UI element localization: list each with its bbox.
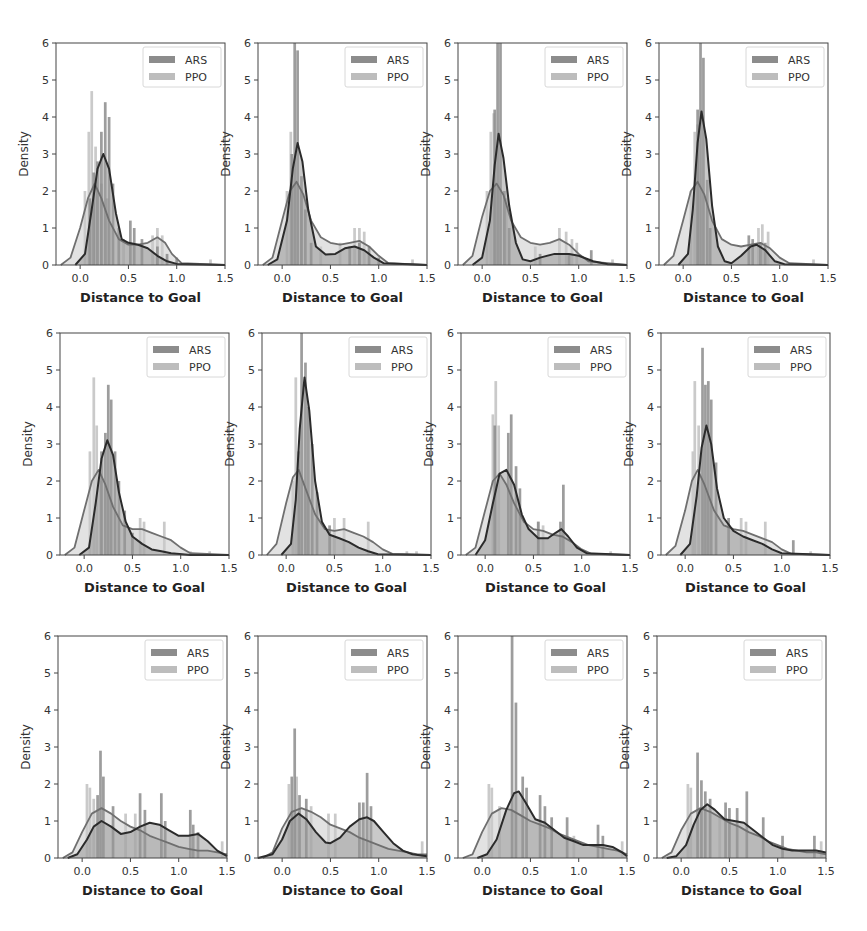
ppo-legend-label: PPO [590,361,612,374]
y-tick-label: 1 [44,815,51,828]
x-axis-label: Distance to Goal [681,883,802,898]
x-tick-label: 0.5 [525,562,543,575]
y-tick-label: 2 [444,185,451,198]
y-tick-label: 4 [447,401,454,414]
y-tick-label: 5 [645,74,652,87]
y-tick-label: 0 [647,549,654,562]
x-tick-label: 0.0 [75,562,93,575]
ars-legend-label: ARS [387,54,409,67]
x-tick-label: 0.5 [124,562,142,575]
x-tick-label: 0.0 [277,562,295,575]
y-tick-label: 5 [46,364,53,377]
y-tick-label: 6 [46,327,53,340]
ppo-legend-swatch [750,666,776,673]
x-tick-label: 1.0 [170,865,188,878]
subplot-r1-c2: 01234560.00.51.01.5DensityDistance to Go… [208,33,437,319]
x-tick-label: 1.0 [370,272,388,285]
y-tick-label: 0 [643,852,650,865]
y-tick-label: 3 [244,741,251,754]
y-tick-label: 2 [643,778,650,791]
ars-legend-label: ARS [387,647,409,660]
y-tick-label: 4 [444,111,451,124]
x-tick-label: 0.5 [522,272,540,285]
y-axis-label: Density [618,724,632,770]
y-tick-label: 5 [647,364,654,377]
y-tick-label: 6 [44,630,51,643]
x-tick-label: 1.0 [374,562,392,575]
ppo-legend-swatch [754,363,780,370]
x-tick-label: 1.0 [370,865,388,878]
y-tick-label: 2 [248,475,255,488]
x-axis-label: Distance to Goal [282,883,403,898]
x-tick-label: 0.5 [120,272,138,285]
y-tick-label: 6 [447,327,454,340]
y-tick-label: 6 [248,327,255,340]
y-tick-label: 0 [444,259,451,272]
ppo-legend-label: PPO [391,361,413,374]
ppo-legend-label: PPO [387,664,409,677]
subplot-r2-c4: 01234560.00.51.01.5DensityDistance to Go… [611,323,840,609]
x-axis-label: Distance to Goal [80,290,201,305]
x-tick-label: 0.5 [721,865,739,878]
x-axis-label: Distance to Goal [286,580,407,595]
ars-legend-swatch [551,56,577,63]
y-tick-label: 3 [46,438,53,451]
ppo-legend-swatch [355,363,381,370]
y-tick-label: 3 [42,148,49,161]
y-tick-label: 5 [244,74,251,87]
y-tick-label: 3 [643,741,650,754]
y-tick-label: 4 [248,401,255,414]
y-tick-label: 2 [42,185,49,198]
x-tick-label: 0.0 [273,272,291,285]
y-tick-label: 2 [44,778,51,791]
x-tick-label: 1.0 [570,272,588,285]
ars-legend-label: ARS [590,344,612,357]
y-tick-label: 6 [645,37,652,50]
subplot-r3-c4: 01234560.00.51.01.5DensityDistance to Go… [607,626,836,912]
y-tick-label: 2 [447,475,454,488]
x-tick-label: 1.5 [821,562,839,575]
y-tick-label: 5 [42,74,49,87]
y-tick-label: 1 [643,815,650,828]
y-tick-label: 0 [244,852,251,865]
ppo-legend-swatch [554,363,580,370]
x-axis-label: Distance to Goal [84,580,205,595]
ppo-legend-swatch [351,73,377,80]
y-tick-label: 1 [244,815,251,828]
x-axis-label: Distance to Goal [482,290,603,305]
ars-legend-swatch [153,346,179,353]
x-tick-label: 1.0 [573,562,591,575]
ppo-histogram [65,377,229,555]
y-tick-label: 5 [447,364,454,377]
x-tick-label: 0.5 [322,865,340,878]
y-tick-label: 6 [244,37,251,50]
legend: ARSPPO [748,337,826,377]
ars-legend-label: ARS [786,647,808,660]
y-axis-label: Density [219,131,233,177]
y-tick-label: 3 [44,741,51,754]
subplot-r3-c1: 01234560.00.51.01.5DensityDistance to Go… [8,626,237,912]
y-tick-label: 4 [244,704,251,717]
subplot-r3-c3: 01234560.00.51.01.5DensityDistance to Go… [408,626,637,912]
ars-legend-swatch [752,56,778,63]
ppo-legend-swatch [551,73,577,80]
ppo-histogram [666,381,830,555]
x-tick-label: 1.0 [172,562,190,575]
legend: ARSPPO [746,47,824,87]
x-tick-label: 0.5 [326,562,344,575]
ars-legend-swatch [554,346,580,353]
x-axis-label: Distance to Goal [82,883,203,898]
x-tick-label: 0.5 [723,272,741,285]
y-tick-label: 4 [44,704,51,717]
ppo-legend-label: PPO [587,664,609,677]
x-tick-label: 0.5 [322,272,340,285]
x-tick-label: 0.0 [674,272,692,285]
ppo-histogram [61,91,225,265]
y-tick-label: 1 [244,222,251,235]
y-axis-label: Density [223,421,237,467]
y-tick-label: 6 [244,630,251,643]
ars-legend-swatch [151,649,177,656]
x-tick-label: 0.5 [122,865,140,878]
ppo-legend-label: PPO [790,361,812,374]
ars-legend-swatch [351,56,377,63]
